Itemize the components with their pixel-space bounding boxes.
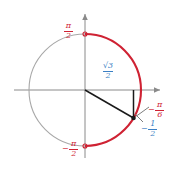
diagram-canvas — [0, 0, 172, 172]
unit-circle-diagram: π 2 − π 2 √3 2 − π 6 − 1 2 — [0, 0, 172, 172]
label-sine: − 1 2 — [141, 120, 157, 138]
label-cosine: √3 2 — [103, 62, 113, 80]
terminal-point-marker — [131, 116, 136, 121]
radius-segment — [85, 90, 134, 118]
label-y-bottom: − π 2 — [62, 140, 78, 158]
label-angle: − π 6 — [148, 101, 164, 119]
label-y-top: π 2 — [64, 22, 73, 40]
